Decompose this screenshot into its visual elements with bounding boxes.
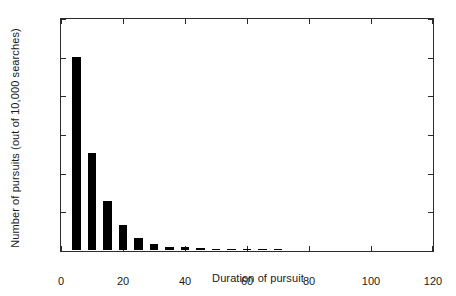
x-axis-tick-top — [123, 19, 124, 24]
x-axis-title: Duration of pursuit — [60, 272, 456, 284]
x-axis-tick-top — [247, 19, 248, 24]
histogram-bar — [243, 249, 252, 250]
plot-area: 0100020003000400050006000020406080100120 — [60, 18, 434, 252]
histogram-bar — [165, 247, 174, 250]
y-axis-tick-right — [428, 251, 433, 252]
y-axis-tick — [61, 174, 66, 175]
histogram-bar — [196, 248, 205, 250]
x-axis-tick-top — [309, 19, 310, 24]
histogram-bar — [150, 244, 159, 250]
x-axis-tick-top — [185, 19, 186, 24]
y-axis-tick-right — [428, 96, 433, 97]
y-axis-tick-right — [428, 135, 433, 136]
y-axis-tick — [61, 251, 66, 252]
x-axis-tick — [309, 246, 310, 251]
histogram-bar — [227, 249, 236, 250]
y-axis-tick-right — [428, 212, 433, 213]
y-axis-tick-right — [428, 174, 433, 175]
histogram-bar — [134, 238, 143, 250]
plot-inner: 0100020003000400050006000020406080100120 — [61, 19, 433, 251]
y-axis-tick-right — [428, 58, 433, 59]
y-axis-title: Number of pursuits (out of 10,000 search… — [6, 18, 24, 258]
histogram-figure: Number of pursuits (out of 10,000 search… — [0, 0, 456, 296]
histogram-bar — [258, 249, 267, 250]
histogram-bar — [274, 249, 283, 250]
y-axis-tick — [61, 135, 66, 136]
x-axis-tick-top — [432, 19, 433, 24]
histogram-bar — [181, 247, 190, 250]
x-axis-tick — [61, 246, 62, 251]
y-axis-tick — [61, 212, 66, 213]
histogram-bar — [72, 57, 81, 250]
histogram-bar — [212, 249, 221, 250]
x-axis-tick — [432, 246, 433, 251]
histogram-bar — [103, 201, 112, 250]
y-axis-tick — [61, 96, 66, 97]
x-axis-tick-top — [61, 19, 62, 24]
x-axis-tick — [371, 246, 372, 251]
histogram-bar — [119, 225, 128, 250]
histogram-bar — [88, 153, 97, 250]
x-axis-tick-top — [371, 19, 372, 24]
y-axis-tick — [61, 58, 66, 59]
